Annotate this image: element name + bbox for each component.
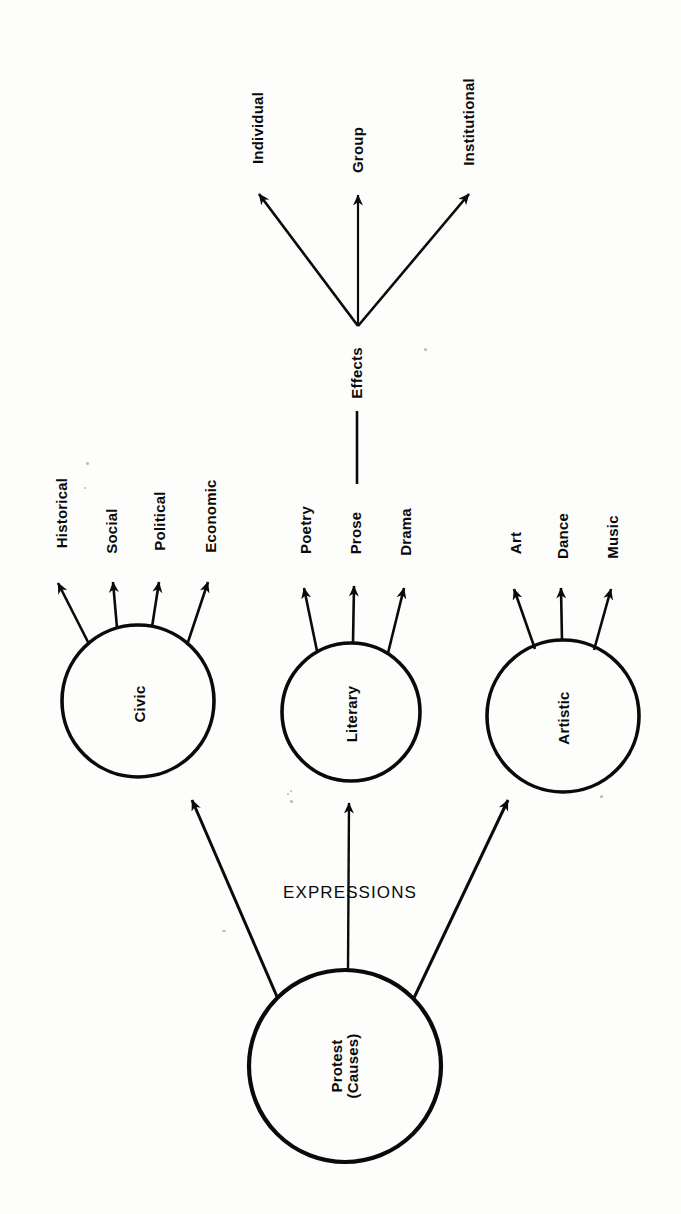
node-label-civic: Civic xyxy=(132,686,148,723)
branch-label-individual: Individual xyxy=(250,92,266,164)
arrow-civic-economic xyxy=(187,582,208,645)
scan-speck xyxy=(290,800,293,803)
scan-speck xyxy=(424,348,427,351)
branch-label-group: Group xyxy=(350,127,366,173)
branch-label-dance: Dance xyxy=(555,513,571,559)
arrow-artistic-music xyxy=(594,589,611,650)
edge-label-effects: Effects xyxy=(349,347,365,398)
branch-label-poetry: Poetry xyxy=(298,506,314,554)
branch-label-drama: Drama xyxy=(398,508,414,556)
arrow-artistic-dance xyxy=(561,588,562,641)
node-label-protest: Protest (Causes) xyxy=(329,1034,361,1099)
arrow-artistic-art xyxy=(514,589,535,649)
node-label-artistic: Artistic xyxy=(556,691,572,744)
scan-speck xyxy=(86,462,89,465)
branch-label-political: Political xyxy=(152,491,168,550)
diagram-canvas: Protest (Causes) Civic Literary Artistic… xyxy=(0,0,681,1214)
scan-speck xyxy=(290,790,292,792)
branch-label-historical: Historical xyxy=(54,478,70,548)
arrow-literary-drama xyxy=(388,588,404,653)
branch-label-social: Social xyxy=(104,508,120,553)
node-label-protest-line1: Protest xyxy=(329,1034,345,1099)
scan-speck xyxy=(84,487,86,489)
arrow-civic-historical xyxy=(58,583,89,644)
arrow-civic-social xyxy=(113,582,117,628)
branch-label-art: Art xyxy=(508,532,524,554)
edge-label-expressions: EXPRESSIONS xyxy=(283,884,417,902)
branch-label-prose: Prose xyxy=(348,512,364,555)
arrow-protest-to-civic xyxy=(192,800,278,999)
arrow-protest-to-artistic xyxy=(413,800,508,1000)
node-label-protest-line2: (Causes) xyxy=(345,1034,361,1099)
arrow-civic-political xyxy=(152,582,159,627)
arrow-effects-institutional xyxy=(358,194,469,326)
diagram-lines-and-arrows xyxy=(0,0,681,1214)
scan-speck xyxy=(222,930,226,932)
scan-speck xyxy=(600,795,603,798)
arrow-literary-poetry xyxy=(304,588,317,651)
branch-label-economic: Economic xyxy=(203,479,219,552)
branch-label-music: Music xyxy=(605,515,621,559)
arrow-effects-individual xyxy=(259,194,358,326)
arrow-literary-prose xyxy=(353,586,354,643)
node-label-literary: Literary xyxy=(344,686,360,743)
branch-label-institutional: Institutional xyxy=(461,78,477,166)
scan-speck xyxy=(287,793,289,795)
